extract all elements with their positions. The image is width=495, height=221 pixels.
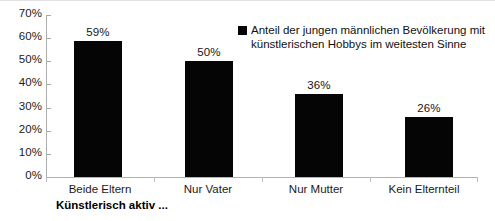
legend-swatch-icon	[238, 26, 247, 35]
chart-legend: Anteil der jungen männlichen Bevölkerung…	[238, 23, 495, 51]
bar	[185, 61, 233, 177]
x-axis-category-label: Nur Mutter	[262, 183, 370, 195]
bar-value-label: 59%	[86, 26, 109, 38]
bar	[405, 117, 453, 177]
legend-label-line1: Anteil der jungen männlichen Bevölkerung…	[251, 24, 485, 36]
bar-value-label: 50%	[197, 46, 220, 58]
x-axis-category-label: Kein Elternteil	[370, 183, 478, 195]
bar-value-label: 36%	[307, 79, 330, 91]
bar-group: 59%	[74, 41, 122, 177]
bar	[74, 41, 122, 177]
bar-chart: 70% 60% 50% 40% 30% 20% 10% 0%	[0, 0, 495, 221]
bar-value-label: 26%	[417, 102, 440, 114]
x-axis-category-label: Nur Vater	[154, 183, 262, 195]
bar-group: 36%	[295, 94, 343, 177]
x-axis-category-label: Beide Eltern	[46, 183, 154, 195]
legend-entry-label: Anteil der jungen männlichen Bevölkerung…	[251, 23, 495, 51]
legend-label-line2: künstlerischen Hobbys im weitesten Sinne	[251, 38, 466, 50]
bar-group: 26%	[405, 117, 453, 177]
bar	[295, 94, 343, 177]
bar-group: 50%	[185, 61, 233, 177]
x-axis-caption: Künstlerisch aktiv ...	[56, 199, 168, 211]
